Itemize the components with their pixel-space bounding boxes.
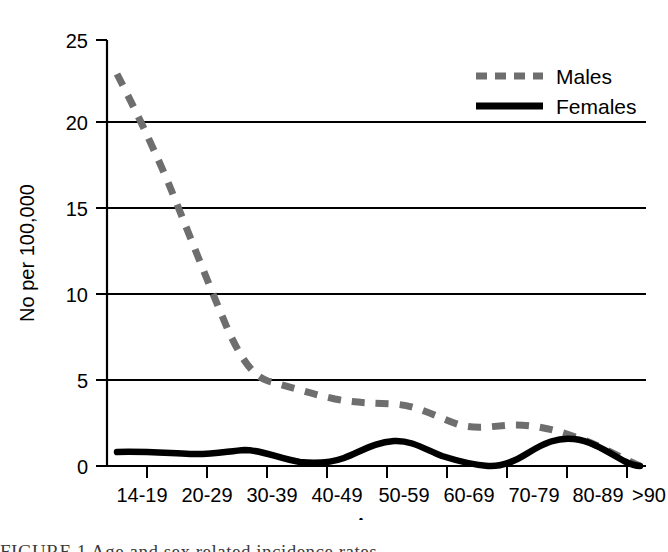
x-tick-label-14-19: 14-19 — [116, 484, 167, 506]
x-axis: 14-19 20-29 30-39 40-49 50-59 60-69 70-7… — [107, 466, 666, 520]
x-tick-label-30-39: 30-39 — [246, 484, 297, 506]
x-tick-label-80-89: 80-89 — [572, 484, 623, 506]
legend: Males Females — [476, 65, 637, 118]
incidence-line-chart: 25 20 15 10 5 0 No per 100,000 14-19 20-… — [0, 0, 668, 520]
legend-label-males: Males — [556, 65, 612, 88]
x-tick-label-20-29: 20-29 — [181, 484, 232, 506]
gridlines — [107, 122, 646, 466]
y-axis-title: No per 100,000 — [16, 184, 38, 322]
x-tick-label-50-59: 50-59 — [378, 484, 429, 506]
figure-caption: FIGURE 1 Age and sex related incidence r… — [0, 542, 668, 552]
x-tick-label-over-90: >90 — [632, 484, 666, 506]
y-tick-label-0: 0 — [77, 456, 88, 478]
legend-label-females: Females — [556, 95, 637, 118]
series-line-females — [117, 439, 640, 467]
y-axis: 25 20 15 10 5 0 No per 100,000 — [16, 30, 107, 478]
y-tick-label-10: 10 — [66, 284, 88, 306]
y-tick-label-25: 25 — [66, 30, 88, 52]
series-plot-area — [117, 74, 640, 466]
y-tick-label-5: 5 — [77, 370, 88, 392]
x-tick-label-40-49: 40-49 — [311, 484, 362, 506]
x-axis-title: Age — [354, 514, 390, 520]
y-tick-label-15: 15 — [66, 198, 88, 220]
y-tick-label-20: 20 — [66, 112, 88, 134]
x-tick-label-70-79: 70-79 — [508, 484, 559, 506]
series-line-males — [117, 74, 640, 466]
x-tick-label-60-69: 60-69 — [443, 484, 494, 506]
figure-container: 25 20 15 10 5 0 No per 100,000 14-19 20-… — [0, 0, 668, 552]
